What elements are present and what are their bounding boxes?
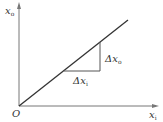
x-axis-label: xi (149, 109, 157, 121)
origin-label: O (12, 108, 20, 119)
y-axis-arrow-icon (17, 2, 21, 9)
delta-input-label: Δxi (72, 75, 88, 87)
x-axis-arrow-icon (152, 104, 159, 108)
delta-output-label: Δxo (104, 53, 122, 65)
diagram-canvas: xo xi O Δxo Δxi (0, 0, 163, 122)
y-axis-label: xo (5, 5, 15, 17)
